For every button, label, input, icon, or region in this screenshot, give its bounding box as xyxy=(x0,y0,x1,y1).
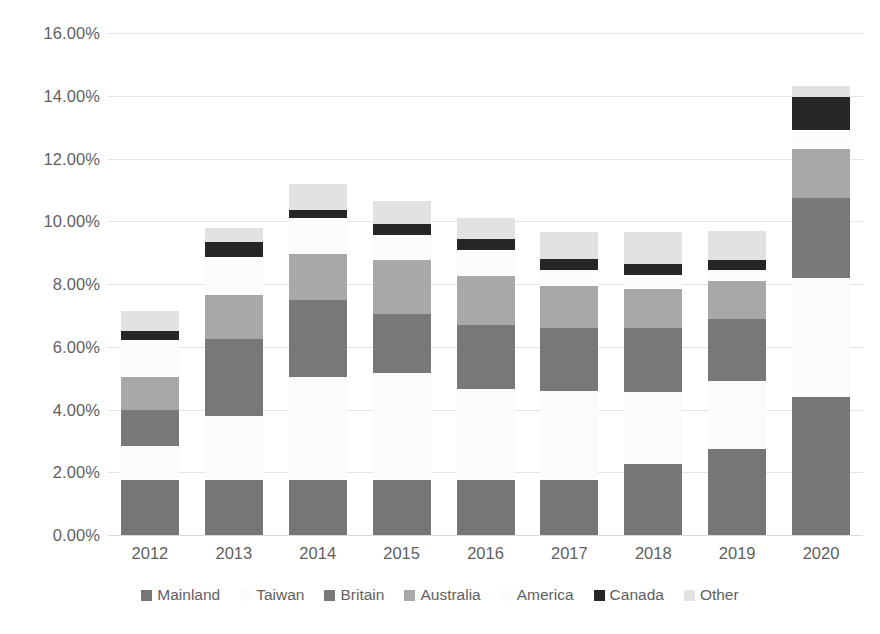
bar-segment-britain[interactable] xyxy=(708,319,766,382)
legend-label: Taiwan xyxy=(256,586,304,604)
bar-segment-mainland[interactable] xyxy=(792,397,850,535)
bar-segment-britain[interactable] xyxy=(373,314,431,374)
bar-segment-other[interactable] xyxy=(121,311,179,331)
bar-group[interactable] xyxy=(708,33,766,535)
legend-label: Mainland xyxy=(157,586,220,604)
legend-item-australia[interactable]: Australia xyxy=(404,586,480,604)
bar-group[interactable] xyxy=(205,33,263,535)
bar-group[interactable] xyxy=(792,33,850,535)
bar-segment-mainland[interactable] xyxy=(121,480,179,535)
legend-item-canada[interactable]: Canada xyxy=(594,586,664,604)
bar-segment-other[interactable] xyxy=(624,232,682,263)
bar-segment-other[interactable] xyxy=(373,201,431,225)
legend-label: Britain xyxy=(340,586,384,604)
bar-segment-australia[interactable] xyxy=(792,149,850,198)
bar-segment-america[interactable] xyxy=(121,340,179,376)
plot-area xyxy=(108,33,863,535)
bar-group[interactable] xyxy=(289,33,347,535)
legend-label: America xyxy=(517,586,574,604)
bar-segment-taiwan[interactable] xyxy=(540,391,598,480)
y-axis-tick-label: 8.00% xyxy=(8,275,100,294)
bar-segment-other[interactable] xyxy=(540,232,598,259)
bar-segment-taiwan[interactable] xyxy=(792,278,850,397)
bar-segment-taiwan[interactable] xyxy=(373,373,431,480)
bar-segment-taiwan[interactable] xyxy=(624,392,682,464)
bar-segment-other[interactable] xyxy=(289,184,347,211)
bar-segment-britain[interactable] xyxy=(792,198,850,278)
bar-segment-mainland[interactable] xyxy=(624,464,682,535)
bar-segment-mainland[interactable] xyxy=(289,480,347,535)
bar-stack xyxy=(373,33,431,535)
x-axis-tick-label: 2020 xyxy=(771,544,871,563)
bar-segment-canada[interactable] xyxy=(205,242,263,258)
legend-swatch-icon xyxy=(240,590,251,601)
legend-item-other[interactable]: Other xyxy=(684,586,739,604)
bar-segment-canada[interactable] xyxy=(792,97,850,130)
y-axis-labels: 0.00%2.00%4.00%6.00%8.00%10.00%12.00%14.… xyxy=(0,33,100,535)
bar-segment-taiwan[interactable] xyxy=(708,381,766,448)
bar-group[interactable] xyxy=(373,33,431,535)
bar-segment-australia[interactable] xyxy=(205,295,263,339)
bar-segment-mainland[interactable] xyxy=(457,480,515,535)
bar-group[interactable] xyxy=(624,33,682,535)
bar-segment-australia[interactable] xyxy=(121,377,179,410)
bar-segment-canada[interactable] xyxy=(121,331,179,340)
bar-segment-taiwan[interactable] xyxy=(289,377,347,481)
bar-segment-taiwan[interactable] xyxy=(205,416,263,480)
bar-segment-australia[interactable] xyxy=(457,276,515,325)
bar-segment-canada[interactable] xyxy=(708,260,766,269)
bar-segment-britain[interactable] xyxy=(289,300,347,377)
bar-segment-canada[interactable] xyxy=(457,239,515,250)
bar-segment-taiwan[interactable] xyxy=(457,389,515,480)
bar-stack xyxy=(457,33,515,535)
bar-segment-america[interactable] xyxy=(289,218,347,254)
bar-stack xyxy=(121,33,179,535)
bar-stack xyxy=(540,33,598,535)
bar-segment-britain[interactable] xyxy=(457,325,515,389)
y-axis-tick-label: 12.00% xyxy=(8,149,100,168)
bar-segment-australia[interactable] xyxy=(540,286,598,328)
bar-segment-america[interactable] xyxy=(624,275,682,289)
bar-segment-america[interactable] xyxy=(373,235,431,260)
bar-segment-australia[interactable] xyxy=(289,254,347,299)
bar-segment-america[interactable] xyxy=(457,250,515,277)
bar-segment-america[interactable] xyxy=(708,270,766,281)
bar-segment-america[interactable] xyxy=(205,257,263,295)
bar-segment-australia[interactable] xyxy=(708,281,766,319)
y-axis-tick-label: 0.00% xyxy=(8,526,100,545)
bar-segment-other[interactable] xyxy=(457,218,515,238)
bar-segment-britain[interactable] xyxy=(624,328,682,392)
bar-segment-mainland[interactable] xyxy=(540,480,598,535)
bar-segment-canada[interactable] xyxy=(289,210,347,218)
bar-segment-australia[interactable] xyxy=(373,260,431,313)
bar-segment-america[interactable] xyxy=(792,130,850,149)
bar-segment-canada[interactable] xyxy=(624,264,682,275)
legend-item-taiwan[interactable]: Taiwan xyxy=(240,586,304,604)
bar-segment-mainland[interactable] xyxy=(205,480,263,535)
bar-segment-america[interactable] xyxy=(540,270,598,286)
legend-item-britain[interactable]: Britain xyxy=(324,586,384,604)
bar-segment-canada[interactable] xyxy=(373,224,431,235)
bar-segment-britain[interactable] xyxy=(205,339,263,416)
legend-swatch-icon xyxy=(501,590,512,601)
bar-segment-other[interactable] xyxy=(708,231,766,261)
bar-segment-other[interactable] xyxy=(792,86,850,97)
bar-segment-britain[interactable] xyxy=(540,328,598,391)
legend-label: Other xyxy=(700,586,739,604)
bar-group[interactable] xyxy=(121,33,179,535)
bar-segment-mainland[interactable] xyxy=(373,480,431,535)
bar-segment-taiwan[interactable] xyxy=(121,446,179,481)
bar-group[interactable] xyxy=(540,33,598,535)
bar-segment-australia[interactable] xyxy=(624,289,682,328)
bar-segment-canada[interactable] xyxy=(540,259,598,270)
bar-segment-other[interactable] xyxy=(205,228,263,242)
legend-label: Canada xyxy=(610,586,664,604)
y-axis-tick-label: 6.00% xyxy=(8,337,100,356)
bar-segment-britain[interactable] xyxy=(121,410,179,446)
legend-swatch-icon xyxy=(324,590,335,601)
bar-group[interactable] xyxy=(457,33,515,535)
legend-item-mainland[interactable]: Mainland xyxy=(141,586,220,604)
bar-segment-mainland[interactable] xyxy=(708,449,766,535)
legend-item-america[interactable]: America xyxy=(501,586,574,604)
y-axis-tick-label: 14.00% xyxy=(8,86,100,105)
